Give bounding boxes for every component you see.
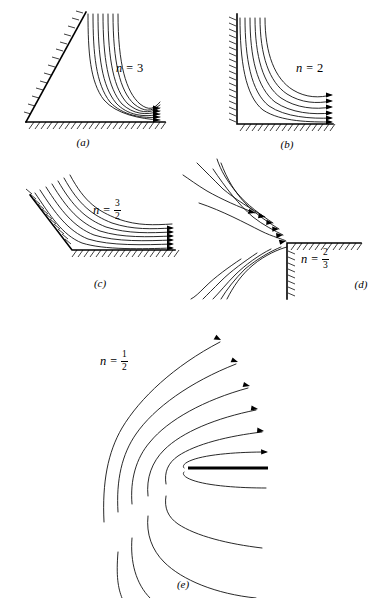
panel-c: n = 3 2 (c) <box>0 155 195 300</box>
panel-b-flow-arrows <box>326 92 333 124</box>
panel-e-n-variable: n <box>100 355 106 368</box>
panel-c-flow-arrows <box>167 225 174 250</box>
panel-b-n-value: 2 <box>317 62 323 75</box>
panel-a-walls <box>26 12 165 122</box>
panel-e-n-label: n = 1 2 <box>100 350 128 372</box>
panel-d-fraction-denominator: 3 <box>322 259 329 271</box>
panel-e-n-fraction: 1 2 <box>121 350 128 372</box>
panel-b-n-label: n = 2 <box>296 62 323 75</box>
slanted-wall-line <box>26 12 86 122</box>
panel-b-diagram <box>183 0 366 150</box>
panel-c-n-label: n = 3 2 <box>93 199 121 221</box>
panel-d-fraction-numerator: 2 <box>322 248 329 259</box>
panel-a-n-label: n = 3 <box>116 62 143 75</box>
panel-d-n-variable: n <box>301 253 307 266</box>
panel-e-flow-arrows <box>214 335 268 455</box>
panel-a-diagram <box>0 0 183 150</box>
panel-c-n-variable: n <box>93 204 99 217</box>
panel-e-equals-sign: = <box>110 355 117 367</box>
panel-c-caption: (c) <box>80 277 120 289</box>
panel-b-n-variable: n <box>296 62 302 75</box>
panel-d-caption: (d) <box>341 278 372 290</box>
panel-a-caption: (a) <box>63 136 103 148</box>
panel-a-equals-sign: = <box>126 62 133 74</box>
panel-b-equals-sign: = <box>306 62 313 74</box>
panel-e: n = 1 2 <box>60 300 326 598</box>
panel-a-flow-arrows <box>153 105 160 122</box>
panel-c-equals-sign: = <box>103 204 110 216</box>
panel-a: n = 3 (a) <box>0 0 183 150</box>
panel-e-streamlines-upper <box>104 342 266 522</box>
panel-d-streamlines-lower <box>191 247 287 299</box>
panel-d-n-label-outer: n = 2 3 <box>301 248 329 270</box>
panel-e-diagram <box>60 300 326 598</box>
panel-a-n-variable: n <box>116 62 122 75</box>
panel-e-caption: (e) <box>163 578 203 590</box>
panel-c-fraction-denominator: 2 <box>114 210 121 222</box>
panel-b: n = 2 (b) <box>183 0 366 150</box>
panel-c-fraction-numerator: 3 <box>114 199 121 210</box>
panel-d-n-fraction: 2 3 <box>322 248 329 270</box>
panel-d-equals-sign: = <box>311 253 318 265</box>
panel-e-fraction-denominator: 2 <box>121 361 128 373</box>
panel-b-caption: (b) <box>267 138 307 150</box>
panel-d-streamlines <box>183 159 286 241</box>
panel-c-n-fraction: 3 2 <box>114 199 121 221</box>
panel-e-fraction-numerator: 1 <box>121 350 128 361</box>
panel-a-n-value: 3 <box>137 62 143 75</box>
panel-d-diagram <box>183 155 366 300</box>
panel-d: (d) <box>183 155 366 300</box>
